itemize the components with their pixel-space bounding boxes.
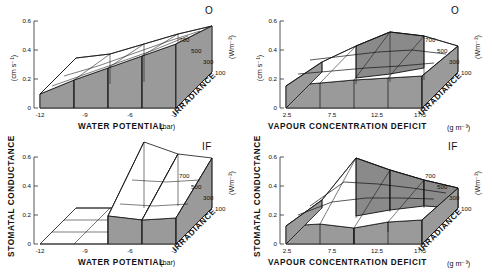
x-tick-1: 7.5 bbox=[328, 247, 337, 254]
y-tick-3: 700 bbox=[425, 36, 436, 43]
x-tick-0: -12 bbox=[36, 247, 46, 254]
x-axis-top-left: -12 -9 -6 -3 WATER POTENTIAL (bar) bbox=[36, 111, 178, 131]
z-tick-3: 0.6 bbox=[268, 153, 277, 160]
x-tick-2: -6 bbox=[127, 111, 133, 118]
z-tick-0: 0 bbox=[28, 240, 32, 247]
y-tick-3: 700 bbox=[179, 36, 190, 43]
y-tick-0: 100 bbox=[215, 69, 226, 76]
z-axis-top-left: 0.6 0.4 0.2 0 (cm s⁻¹) bbox=[9, 17, 38, 111]
x-tick-2: 12.5 bbox=[371, 111, 384, 118]
x-axis-title: VAPOUR CONCENTRATION DEFICIT bbox=[268, 122, 427, 131]
x-axis-bottom-left: -12 -9 -6 -3 WATER POTENTIAL (bar) bbox=[36, 247, 178, 267]
y-tick-2: 500 bbox=[437, 183, 448, 190]
y-tick-2: 500 bbox=[191, 183, 202, 190]
y-tick-0: 100 bbox=[461, 69, 472, 76]
panel-label-bottom-left: IF bbox=[202, 141, 212, 152]
x-tick-1: -9 bbox=[82, 111, 88, 118]
z-tick-0: 0 bbox=[28, 104, 32, 111]
y-tick-0: 100 bbox=[461, 205, 472, 212]
z-tick-2: 0.4 bbox=[22, 46, 31, 53]
z-tick-1: 0.2 bbox=[22, 211, 31, 218]
z-tick-0: 0 bbox=[274, 240, 278, 247]
z-tick-3: 0.6 bbox=[22, 17, 31, 24]
y-tick-2: 500 bbox=[437, 47, 448, 54]
z-tick-2: 0.4 bbox=[268, 46, 277, 53]
z-tick-1: 0.2 bbox=[22, 75, 31, 82]
x-axis-title: WATER POTENTIAL bbox=[78, 122, 165, 131]
y-tick-1: 300 bbox=[449, 194, 460, 201]
z-axis-title: STOMATAL CONDUCTANCE bbox=[253, 136, 262, 257]
x-axis-bottom-right: 2.5 7.5 12.5 17.5 VAPOUR CONCENTRATION D… bbox=[268, 247, 470, 268]
x-tick-3: -3 bbox=[171, 247, 177, 254]
x-tick-3: 17.5 bbox=[414, 111, 427, 118]
y-tick-1: 300 bbox=[203, 58, 214, 65]
panel-top-left: 0.6 0.4 0.2 0 (cm s⁻¹) bbox=[0, 0, 246, 137]
x-tick-1: -9 bbox=[82, 247, 88, 254]
z-tick-0: 0 bbox=[274, 104, 278, 111]
z-axis-bottom-right: 0.6 0.4 0.2 0 STOMATAL CONDUCTANCE bbox=[253, 136, 284, 257]
x-axis-unit: (bar) bbox=[160, 258, 175, 267]
y-axis-unit: (Wm⁻²) bbox=[227, 171, 236, 195]
y-tick-3: 700 bbox=[179, 172, 190, 179]
y-tick-1: 300 bbox=[203, 194, 214, 201]
z-axis-top-right: 0.6 0.4 0.2 0 (cm s⁻¹) bbox=[255, 17, 284, 111]
x-tick-3: 17.5 bbox=[414, 247, 427, 254]
z-tick-3: 0.6 bbox=[268, 17, 277, 24]
surface-bottom-left bbox=[40, 142, 212, 244]
panel-top-right: 0.6 0.4 0.2 0 (cm s⁻¹) bbox=[246, 0, 492, 137]
z-axis-title: STOMATAL CONDUCTANCE bbox=[7, 136, 16, 257]
x-axis-unit: (g m⁻³) bbox=[447, 259, 470, 268]
x-axis-title: WATER POTENTIAL bbox=[78, 258, 165, 267]
figure-root: 0.6 0.4 0.2 0 (cm s⁻¹) bbox=[0, 0, 492, 273]
z-tick-1: 0.2 bbox=[268, 75, 277, 82]
y-axis-unit: (Wm⁻²) bbox=[473, 35, 482, 59]
z-axis-unit: (cm s⁻¹) bbox=[255, 55, 264, 81]
panel-label-top-left: O bbox=[205, 5, 213, 16]
x-tick-3: -3 bbox=[171, 111, 177, 118]
x-tick-2: 12.5 bbox=[371, 247, 384, 254]
z-tick-1: 0.2 bbox=[268, 211, 277, 218]
x-tick-0: -12 bbox=[36, 111, 46, 118]
z-tick-3: 0.6 bbox=[22, 153, 31, 160]
y-axis-unit: (Wm⁻²) bbox=[227, 35, 236, 59]
y-tick-0: 100 bbox=[215, 205, 226, 212]
panel-bottom-left: 0.6 0.4 0.2 0 STOMATAL CONDUCTANCE bbox=[0, 136, 246, 273]
x-axis-title: VAPOUR CONCENTRATION DEFICIT bbox=[268, 258, 427, 267]
x-tick-1: 7.5 bbox=[328, 111, 337, 118]
z-tick-2: 0.4 bbox=[22, 182, 31, 189]
x-axis-unit: (bar) bbox=[160, 122, 175, 131]
y-tick-2: 500 bbox=[191, 47, 202, 54]
x-tick-0: 2.5 bbox=[283, 247, 292, 254]
panel-label-top-right: O bbox=[451, 5, 459, 16]
x-axis-top-right: 2.5 7.5 12.5 17.5 VAPOUR CONCENTRATION D… bbox=[268, 111, 470, 132]
panel-label-bottom-right: IF bbox=[448, 141, 458, 152]
panel-bottom-right: 0.6 0.4 0.2 0 STOMATAL CONDUCTANCE bbox=[246, 136, 492, 273]
x-tick-2: -6 bbox=[127, 247, 133, 254]
z-tick-2: 0.4 bbox=[268, 182, 277, 189]
y-tick-3: 700 bbox=[425, 172, 436, 179]
x-tick-0: 2.5 bbox=[283, 111, 292, 118]
y-axis-unit: (Wm⁻²) bbox=[473, 171, 482, 195]
y-tick-1: 300 bbox=[449, 58, 460, 65]
x-axis-unit: (g m⁻³) bbox=[447, 123, 470, 132]
z-axis-unit: (cm s⁻¹) bbox=[9, 55, 18, 81]
z-axis-bottom-left: 0.6 0.4 0.2 0 STOMATAL CONDUCTANCE bbox=[7, 136, 38, 257]
